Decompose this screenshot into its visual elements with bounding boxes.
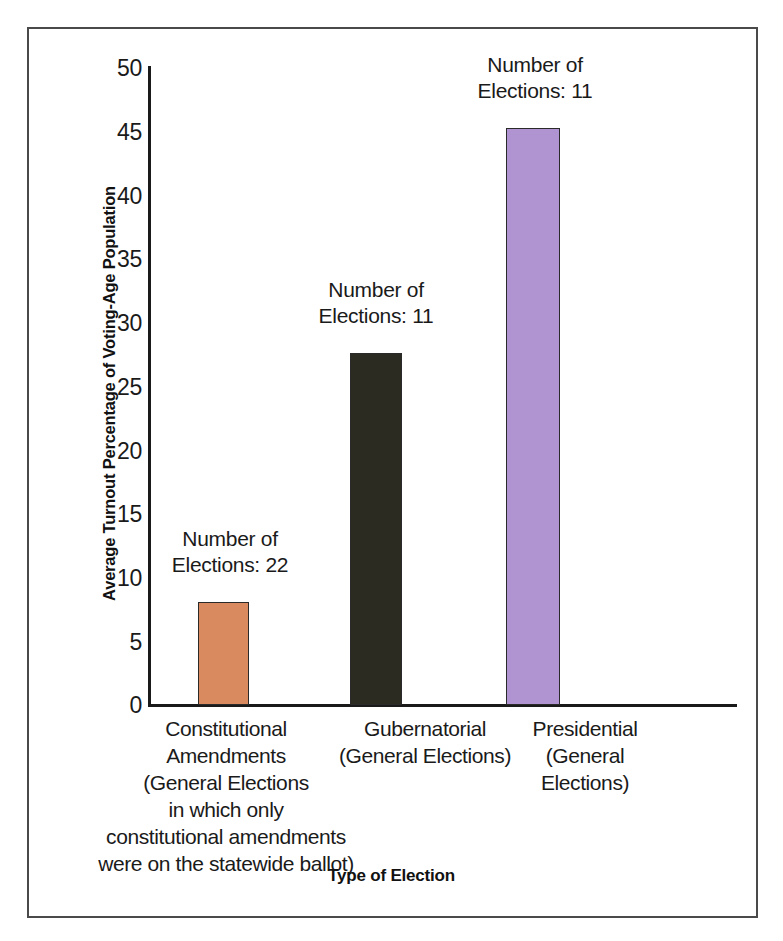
- x-category-label-presidential: Presidential (General Elections): [480, 715, 690, 796]
- y-tick-45: 45: [98, 121, 142, 144]
- y-tick-35: 35: [98, 248, 142, 271]
- y-tick-50: 50: [98, 57, 142, 80]
- plot-area: [148, 68, 735, 705]
- bar-gubernatorial[interactable]: [350, 353, 402, 705]
- y-tick-40: 40: [98, 185, 142, 208]
- y-tick-15: 15: [98, 503, 142, 526]
- y-tick-5: 5: [98, 631, 142, 654]
- x-axis-title: Type of Election: [0, 866, 783, 886]
- y-tick-25: 25: [98, 376, 142, 399]
- bar-presidential[interactable]: [506, 128, 560, 705]
- bar-annotation-constitutional-amendments: Number of Elections: 22: [120, 526, 340, 578]
- y-tick-30: 30: [98, 312, 142, 335]
- bar-annotation-presidential: Number of Elections: 11: [425, 52, 645, 104]
- y-tick-20: 20: [98, 440, 142, 463]
- bar-annotation-gubernatorial: Number of Elections: 11: [266, 277, 486, 329]
- y-tick-0: 0: [98, 694, 142, 717]
- bar-constitutional-amendments[interactable]: [198, 602, 249, 705]
